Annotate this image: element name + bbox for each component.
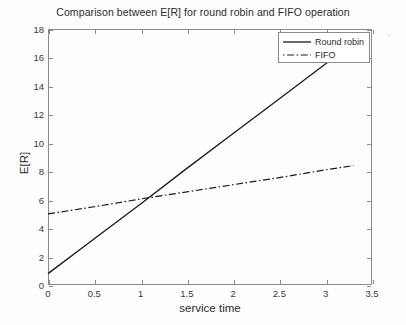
x-tick-mark <box>373 280 374 284</box>
y-tick-label: 10 <box>44 137 55 148</box>
y-tick-label: 8 <box>44 166 49 177</box>
x-tick-mark-top <box>373 30 374 34</box>
legend-item-round-robin: Round robin <box>282 35 366 48</box>
series-line-fifo <box>48 166 353 214</box>
legend-item-fifo: FIFO <box>282 48 366 61</box>
x-tick-label: 3 <box>323 288 328 299</box>
x-axis-title: service time <box>48 302 372 314</box>
x-tick-label: 3.5 <box>365 288 378 299</box>
dashdot-line-swatch-icon <box>282 50 312 60</box>
solid-line-swatch-icon <box>282 37 312 47</box>
x-tick-label: 2.5 <box>273 288 286 299</box>
legend-label-round-robin: Round robin <box>312 37 364 47</box>
y-tick-label: 12 <box>44 109 55 120</box>
y-tick-label: 2 <box>44 251 49 262</box>
page-title: Comparison between E[R] for round robin … <box>0 6 406 18</box>
legend-label-fifo: FIFO <box>312 50 336 60</box>
y-tick-mark-right <box>367 286 371 287</box>
series-plot <box>48 29 372 285</box>
x-tick-label: 1.5 <box>180 288 193 299</box>
figure-canvas: Comparison between E[R] for round robin … <box>0 0 406 325</box>
x-tick-label: 2 <box>230 288 235 299</box>
scan-artifact-mark: ' <box>388 34 392 41</box>
y-tick-label: 16 <box>44 52 55 63</box>
legend: Round robin FIFO <box>278 32 370 63</box>
y-tick-label: 6 <box>44 194 49 205</box>
y-tick-label: 14 <box>44 80 55 91</box>
y-tick-mark <box>49 286 53 287</box>
x-tick-label: 1 <box>138 288 143 299</box>
y-axis-title: E[R] <box>18 133 30 193</box>
x-tick-label: 0.5 <box>88 288 101 299</box>
y-tick-label: 4 <box>44 223 49 234</box>
y-tick-label: 18 <box>44 24 55 35</box>
y-tick-label: 0 <box>44 280 49 291</box>
series-line-round-robin <box>48 43 353 273</box>
